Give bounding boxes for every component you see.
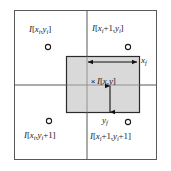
label-bl-y-offset: +1: [43, 130, 52, 140]
label-sample-point: I[x,y]: [97, 77, 116, 86]
label-y-fraction: yf: [102, 116, 108, 125]
label-yf-subscript: f: [106, 119, 108, 126]
label-br-y-subscript: i: [117, 135, 119, 142]
label-top-left-pixel: I[xi,yi]: [29, 25, 51, 34]
pixel-dot-top-right: [125, 44, 130, 49]
label-tl-y-subscript: i: [47, 28, 49, 35]
label-bl-close-bracket: ]: [53, 130, 56, 140]
label-br-close-bracket: ]: [128, 131, 131, 141]
figure-canvas: [0, 0, 171, 171]
label-xf-subscript: f: [145, 59, 147, 66]
label-br-y-offset: +1: [119, 131, 128, 141]
pixel-dot-bottom-left: [46, 118, 51, 123]
pixel-dot-bottom-right: [125, 119, 130, 124]
label-tr-close-bracket: ]: [121, 23, 124, 33]
label-tl-y: y: [43, 24, 47, 34]
label-bl-y: y: [38, 130, 42, 140]
label-bl-y-subscript: i: [42, 134, 44, 141]
label-bottom-left-pixel: I[xi,yi+1]: [24, 131, 56, 140]
label-x-fraction: xf: [141, 56, 147, 65]
label-bottom-right-pixel: I[xi+1,yi+1]: [90, 132, 131, 141]
pixel-dot-top-left: [45, 44, 50, 49]
label-tr-x-offset: +1: [103, 23, 112, 33]
sample-point-marker: ×: [89, 78, 97, 86]
label-top-right-pixel: I[xi+1,yi]: [92, 24, 124, 33]
bilinear-interpolation-figure: × I[xi,yi] I[xi+1,yi] I[xi,yi+1] I[xi+1,…: [0, 0, 171, 171]
label-tr-y-subscript: i: [119, 27, 121, 34]
label-br-x-offset: +1: [101, 131, 110, 141]
label-tl-close-bracket: ]: [48, 24, 51, 34]
label-center-close-bracket: ]: [113, 76, 116, 86]
